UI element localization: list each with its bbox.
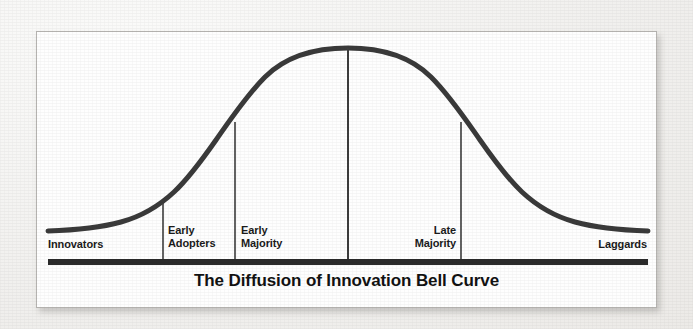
segment-label-early-majority: Early Majority [241, 224, 307, 250]
segment-label-late-majority: Late Majority [387, 224, 456, 250]
segment-label-laggards: Laggards [537, 238, 647, 251]
bell-curve-graphic [37, 32, 656, 307]
segment-label-innovators: Innovators [48, 238, 158, 251]
figure-frame: Innovators Early Adopters Early Majority… [36, 31, 657, 308]
chart-title: The Diffusion of Innovation Bell Curve [37, 271, 656, 291]
segment-label-early-adopters: Early Adopters [168, 224, 232, 250]
bell-curve-plot: Innovators Early Adopters Early Majority… [37, 32, 656, 307]
